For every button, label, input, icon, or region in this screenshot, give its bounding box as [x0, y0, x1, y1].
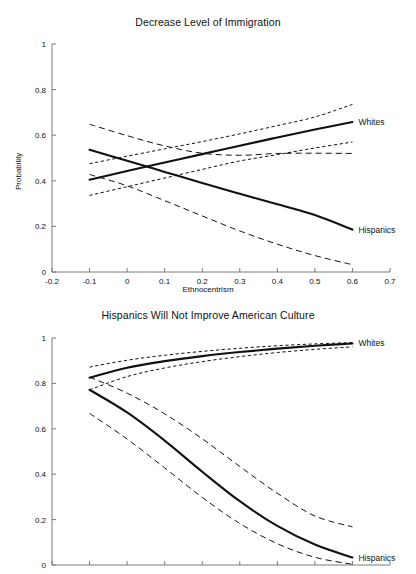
y-tick-label: 1 — [42, 334, 47, 343]
series-annotation-hispanics: Hispanics — [358, 225, 395, 235]
x-tick-label: 0.2 — [197, 277, 209, 286]
series-hispanics — [90, 390, 353, 558]
series-hispanics-lower-ci — [90, 413, 353, 564]
chart-panel-immigration: Decrease Level of Immigration Probabilit… — [0, 0, 416, 300]
y-tick-label: 0 — [42, 268, 47, 277]
y-tick-label: 0.2 — [35, 222, 47, 231]
x-tick-label: 0.4 — [272, 277, 284, 286]
y-tick-label: 0.4 — [35, 177, 47, 186]
y-tick-label: 0.6 — [35, 131, 47, 140]
y-tick-label: 0.8 — [35, 379, 47, 388]
y-tick-label: 0 — [42, 561, 47, 570]
series-annotation-hispanics: Hispanics — [358, 553, 395, 563]
x-tick-label: 0.5 — [309, 277, 321, 286]
x-tick-label: 0 — [125, 277, 130, 286]
y-tick-label: 1 — [42, 40, 47, 49]
x-tick-label: 0.1 — [159, 277, 171, 286]
y-tick-label: 0.8 — [35, 86, 47, 95]
series-annotation-whites: Whites — [358, 117, 384, 127]
series-hispanics — [90, 150, 353, 230]
x-tick-label: -0.2 — [45, 277, 59, 286]
x-tick-label: -0.1 — [83, 277, 97, 286]
chart-1-plot: 00.20.40.60.81-0.2-0.100.10.20.30.40.50.… — [0, 0, 416, 300]
y-tick-label: 0.2 — [35, 516, 47, 525]
series-whites — [90, 343, 353, 377]
chart-2-plot: 00.20.40.60.81WhitesHispanics — [0, 300, 416, 574]
x-tick-label: 0.7 — [384, 277, 396, 286]
series-hispanics-upper-ci — [90, 377, 353, 527]
series-annotation-whites: Whites — [358, 338, 384, 348]
series-whites — [90, 122, 353, 180]
y-tick-label: 0.4 — [35, 470, 47, 479]
figure-container: Decrease Level of Immigration Probabilit… — [0, 0, 416, 574]
x-tick-label: 0.6 — [347, 277, 359, 286]
x-tick-label: 0.3 — [234, 277, 246, 286]
y-tick-label: 0.6 — [35, 425, 47, 434]
chart-panel-culture: Hispanics Will Not Improve American Cult… — [0, 300, 416, 574]
